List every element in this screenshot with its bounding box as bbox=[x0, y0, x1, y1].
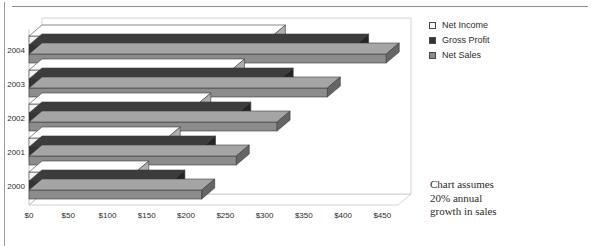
y-axis-tick-label: 2000 bbox=[7, 182, 25, 191]
x-axis-tick-label: $400 bbox=[334, 211, 352, 220]
chart-plot-area: 20042003200220012000$0$50$100$150$200$25… bbox=[0, 14, 420, 220]
x-axis-tick-label: $350 bbox=[295, 211, 313, 220]
chart-annotation: Chart assumes 20% annual growth in sales bbox=[430, 178, 580, 219]
x-axis-tick-label: $300 bbox=[256, 211, 274, 220]
legend-label-net-sales: Net Sales bbox=[442, 50, 481, 61]
x-axis-tick-label: $50 bbox=[62, 211, 76, 220]
chart-legend: Net Income Gross Profit Net Sales bbox=[428, 18, 578, 62]
legend-label-gross-profit: Gross Profit bbox=[442, 35, 490, 46]
y-axis-tick-label: 2002 bbox=[7, 114, 25, 123]
x-axis-tick-label: $450 bbox=[373, 211, 391, 220]
top-divider-rule bbox=[12, 6, 588, 7]
x-axis-tick-label: $200 bbox=[177, 211, 195, 220]
y-axis-tick-label: 2003 bbox=[7, 80, 25, 89]
legend-item-gross-profit[interactable]: Gross Profit bbox=[428, 33, 578, 47]
annotation-line-3: growth in sales bbox=[430, 205, 580, 219]
y-axis-tick-label: 2001 bbox=[7, 148, 25, 157]
bar-chart: 20042003200220012000$0$50$100$150$200$25… bbox=[0, 14, 420, 220]
x-axis-tick-label: $0 bbox=[25, 211, 34, 220]
legend-item-net-income[interactable]: Net Income bbox=[428, 18, 578, 32]
legend-swatch-gross-profit bbox=[429, 37, 436, 44]
legend-label-net-income: Net Income bbox=[442, 20, 488, 31]
y-axis-tick-label: 2004 bbox=[7, 46, 25, 55]
annotation-line-2: 20% annual bbox=[430, 192, 580, 206]
legend-item-net-sales[interactable]: Net Sales bbox=[428, 48, 578, 62]
x-axis-tick-label: $250 bbox=[216, 211, 234, 220]
annotation-line-1: Chart assumes bbox=[430, 178, 580, 192]
x-axis-tick-label: $150 bbox=[138, 211, 156, 220]
legend-swatch-net-sales bbox=[429, 52, 436, 59]
legend-swatch-net-income bbox=[429, 22, 436, 29]
x-axis-tick-label: $100 bbox=[99, 211, 117, 220]
chart-page: 20042003200220012000$0$50$100$150$200$25… bbox=[0, 0, 591, 246]
